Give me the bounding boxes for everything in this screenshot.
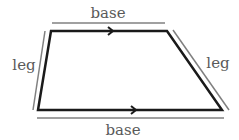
bottom-base-label: base <box>105 121 140 139</box>
top-base-label: base <box>90 4 125 22</box>
left-leg-label: leg <box>12 56 36 74</box>
trapezoid-figure: base base leg leg <box>0 0 239 140</box>
trapezoid-diagram: base base leg leg <box>0 0 239 140</box>
trapezoid-outline <box>38 31 222 110</box>
right-leg-label: leg <box>206 54 230 72</box>
